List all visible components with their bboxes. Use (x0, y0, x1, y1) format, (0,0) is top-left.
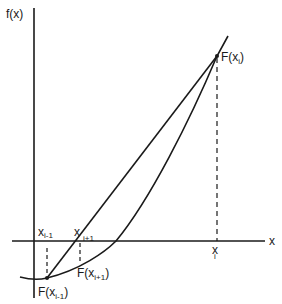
label-x-i: xi (212, 243, 218, 261)
point-F-x-i (215, 54, 219, 58)
label-F-x-i-plus-1: F(xi+1) (77, 266, 109, 282)
label-x-i-minus-1: xi-1 (38, 225, 53, 240)
x-axis-label: x (269, 234, 275, 248)
y-axis-label: f(x) (6, 7, 23, 21)
label-F-x-i: F(xi) (221, 50, 244, 66)
point-F-x-i-minus-1 (45, 276, 49, 280)
function-curve (20, 36, 228, 279)
secant-method-diagram: f(x) x xi-1 xi+1 xi F(xi) F(xi-1) F(xi+1… (0, 0, 282, 304)
label-F-x-i-minus-1: F(xi-1) (38, 285, 68, 301)
secant-line (47, 56, 217, 278)
